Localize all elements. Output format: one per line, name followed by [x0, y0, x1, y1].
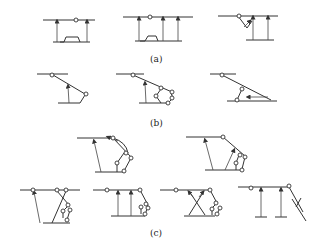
diagram-a3	[218, 14, 278, 40]
label-b: (b)	[150, 118, 163, 128]
diagram-c1	[77, 136, 133, 173]
label-c: (c)	[150, 228, 162, 238]
diagram-c3	[20, 188, 80, 223]
diagram-c6	[238, 184, 306, 221]
diagram-c5	[160, 188, 222, 216]
label-a: (a)	[150, 54, 162, 64]
diagram-b1	[37, 73, 88, 103]
diagram-b3	[210, 73, 277, 102]
diagram-a2	[123, 15, 193, 41]
mechanism-diagram-figure: (a) (b)	[0, 0, 320, 250]
diagram-c4	[93, 188, 150, 216]
diagram-a1	[43, 18, 95, 42]
diagram-b2	[116, 73, 174, 105]
diagram-c2	[186, 135, 247, 172]
